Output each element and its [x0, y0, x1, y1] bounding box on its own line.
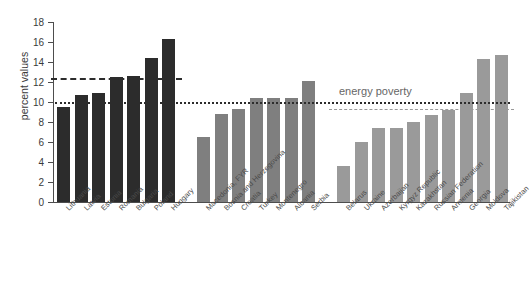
bar: [477, 59, 490, 202]
bar: [197, 137, 210, 202]
y-tick-label: 10: [33, 97, 44, 108]
y-tick-label: 8: [38, 117, 44, 128]
y-tick-mark: [48, 182, 53, 183]
y-tick-mark: [48, 202, 53, 203]
y-tick-mark: [48, 22, 53, 23]
bar: [337, 166, 350, 202]
y-tick-mark: [48, 142, 53, 143]
x-axis-category-labels: LithuaniaLatviaEstoniaRomaniaBulgariaPol…: [55, 204, 520, 293]
plot-area: 181614121086420 energy poverty: [55, 22, 510, 202]
y-tick-mark: [48, 162, 53, 163]
group3-average-line: [329, 109, 514, 110]
y-tick-label: 6: [38, 137, 44, 148]
y-axis-title: percent values: [18, 26, 30, 146]
bar: [92, 93, 105, 202]
y-tick-label: 0: [38, 197, 44, 208]
energy-poverty-threshold-line: [55, 102, 510, 104]
y-tick-mark: [48, 42, 53, 43]
bar: [57, 107, 70, 202]
y-axis-line: [53, 22, 54, 202]
y-tick-label: 16: [33, 37, 44, 48]
y-tick-mark: [48, 102, 53, 103]
bar: [162, 39, 175, 202]
bar: [127, 76, 140, 202]
y-tick-label: 18: [33, 17, 44, 28]
y-tick-mark: [48, 82, 53, 83]
y-tick-mark: [48, 122, 53, 123]
y-tick-label: 4: [38, 157, 44, 168]
bar: [495, 55, 508, 202]
group1-average-line: [51, 78, 182, 80]
y-tick-label: 2: [38, 177, 44, 188]
energy-poverty-annotation: energy poverty: [339, 85, 412, 97]
y-tick-label: 14: [33, 57, 44, 68]
y-tick-mark: [48, 62, 53, 63]
y-tick-label: 12: [33, 77, 44, 88]
bar: [110, 77, 123, 202]
